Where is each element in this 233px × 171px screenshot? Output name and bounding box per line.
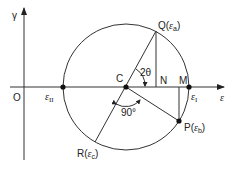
R-label: R(εc) [77, 148, 98, 160]
P-label: P(εb) [184, 122, 205, 134]
point-C [123, 84, 128, 89]
point-eps-II [60, 84, 65, 89]
mohr-circle-diagram: γ ε O C 2θ 90° N M Q(εa) P(εb) R(εc) εI … [0, 0, 233, 171]
x-axis-label: ε [220, 92, 224, 103]
Q-label: Q(εa) [158, 20, 180, 32]
N-label: N [160, 75, 167, 86]
eps-II-label: εII [45, 91, 54, 104]
center-label: C [116, 73, 123, 84]
eps-I-label: εI [191, 91, 198, 104]
two-theta-label: 2θ [140, 67, 152, 78]
right-angle-label: 90° [121, 107, 136, 118]
M-label: M [179, 75, 187, 86]
origin-label: O [13, 92, 21, 103]
point-P [176, 118, 181, 123]
right-angle-arc [116, 100, 140, 107]
y-axis-label: γ [12, 10, 17, 21]
